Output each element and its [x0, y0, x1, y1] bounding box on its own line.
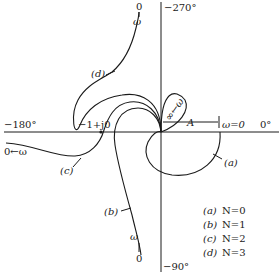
curve-d	[74, 12, 161, 132]
curve-a-tag: (a)	[224, 157, 238, 168]
curve-d-zero: 0	[136, 1, 142, 12]
omega-zero-label: ω=0	[222, 119, 246, 130]
curve-d-omega: ω	[133, 16, 141, 27]
legend-item-d-text: N=3	[222, 247, 246, 258]
a-dimension-label: A	[186, 117, 194, 128]
curve-c-tag: (c)	[60, 165, 74, 176]
legend-item-d-tag: (d)	[203, 247, 217, 258]
curve-b-zero: 0	[136, 253, 142, 264]
curve-c-end-label: 0←ω	[4, 146, 27, 157]
legend-item-c-tag: (c)	[203, 233, 217, 244]
curve-d-pointer	[106, 71, 115, 75]
curve-b-tag: (b)	[104, 206, 118, 217]
top-angle-label: −270°	[164, 2, 196, 13]
curve-b-omega: ω	[130, 231, 138, 242]
curve-a	[146, 131, 220, 175]
legend-item-a-text: N=0	[222, 205, 246, 216]
legend-item-b-tag: (b)	[203, 219, 217, 230]
legend-item-c-text: N=2	[222, 233, 246, 244]
curve-d-tag: (d)	[91, 68, 105, 79]
left-angle-label: −180°	[4, 119, 36, 130]
curve-c-pointer	[73, 158, 81, 167]
bottom-angle-label: −90°	[163, 261, 189, 272]
critical-point-marker	[99, 130, 102, 133]
right-angle-label: 0°	[260, 119, 271, 130]
legend: (a) N=0 (b) N=1 (c) N=2 (d) N=3	[203, 205, 246, 258]
nyquist-diagram: −270° −90° −180° 0° −1+j0 (a) (b) ω 0 (c…	[0, 0, 279, 278]
legend-item-a-tag: (a)	[203, 205, 217, 216]
legend-item-b-text: N=1	[222, 219, 246, 230]
curve-b-pointer	[121, 208, 131, 211]
